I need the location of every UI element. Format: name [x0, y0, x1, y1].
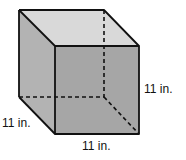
- height-label: 11 in.: [144, 82, 172, 96]
- depth-label: 11 in.: [2, 116, 30, 130]
- cube-diagram: [0, 0, 186, 160]
- width-label: 11 in.: [82, 139, 110, 153]
- front-face: [55, 46, 139, 134]
